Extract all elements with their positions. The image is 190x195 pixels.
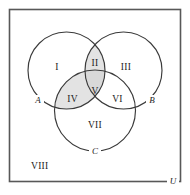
region-label-vii: VII (88, 120, 102, 130)
venn-diagram-canvas: I II III IV V VI VII VIII A B C U (0, 0, 190, 195)
set-label-a: A (34, 95, 41, 105)
set-label-c: C (92, 146, 99, 156)
region-label-ii: II (92, 58, 99, 68)
set-label-b: B (149, 95, 155, 105)
region-label-iii: III (121, 62, 131, 72)
region-label-v: V (91, 86, 98, 96)
region-label-iv: IV (67, 94, 78, 104)
universal-set-label: U (170, 176, 177, 186)
region-label-viii: VIII (31, 161, 49, 171)
region-label-vi: VI (112, 94, 123, 104)
region-label-i: I (55, 62, 58, 72)
venn-diagram-figure: I II III IV V VI VII VIII A B C U (0, 0, 190, 195)
